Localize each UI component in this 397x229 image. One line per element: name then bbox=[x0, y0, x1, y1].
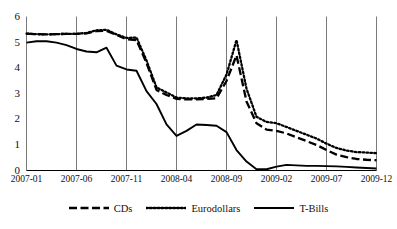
y-tick-label-4: 4 bbox=[4, 62, 20, 73]
y-tick-label-5: 5 bbox=[4, 37, 20, 48]
legend-swatch-dotted bbox=[146, 203, 186, 213]
y-tick-label-6: 6 bbox=[4, 11, 20, 22]
legend-label: Eurodollars bbox=[191, 203, 240, 214]
series-line-eurodollars bbox=[27, 30, 377, 153]
legend-label: CDs bbox=[114, 203, 133, 214]
gridlines bbox=[27, 17, 377, 171]
x-tick-label-2009-12: 2009-12 bbox=[347, 174, 397, 184]
plot-area bbox=[0, 0, 397, 229]
legend-label: T-Bills bbox=[299, 203, 328, 214]
series-lines bbox=[27, 30, 377, 169]
y-tick-label-1: 1 bbox=[4, 139, 20, 150]
legend-entry-eurodollars[interactable]: Eurodollars bbox=[146, 203, 240, 214]
chart-legend: CDsEurodollarsT-Bills bbox=[0, 196, 397, 220]
y-tick-label-2: 2 bbox=[4, 113, 20, 124]
legend-swatch-solid bbox=[254, 203, 294, 213]
legend-entry-t-bills[interactable]: T-Bills bbox=[254, 203, 328, 214]
legend-entry-cds[interactable]: CDs bbox=[69, 203, 133, 214]
legend-swatch-dashed bbox=[69, 203, 109, 213]
line-chart: 0123456 2007-012007-062007-112008-042008… bbox=[0, 0, 397, 229]
y-tick-label-3: 3 bbox=[4, 88, 20, 99]
